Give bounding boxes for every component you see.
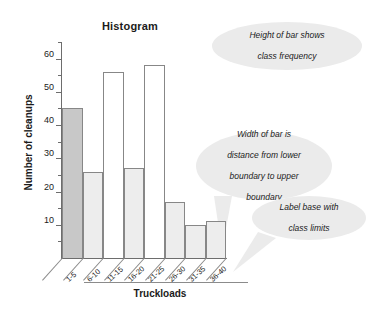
histogram-bar: [103, 72, 124, 258]
histogram-bar: [185, 225, 206, 258]
x-axis-title: Truckloads: [95, 288, 225, 299]
y-tick-label: 20: [32, 187, 54, 188]
y-tick-label: 30: [32, 153, 54, 154]
callout-label-base: Label base with class limits: [252, 196, 366, 240]
y-tick-label: 40: [32, 120, 54, 121]
y-tick-label: 50: [32, 87, 54, 88]
y-axis-title: Number of cleanups: [23, 68, 34, 218]
callout-width-of-bar: Width of bar is distance from lower boun…: [196, 132, 332, 200]
y-tick-minor: [58, 42, 62, 43]
callout-label-line2: class limits: [258, 223, 360, 234]
callout-height-line1: Height of bar shows: [218, 30, 356, 41]
callout-width-line1: Width of bar is: [202, 129, 326, 140]
y-tick-major: [56, 59, 62, 60]
histogram-bar: [144, 65, 165, 258]
histogram-bar: [206, 221, 227, 258]
callout-label-line1: Label base with: [258, 202, 360, 213]
class-limit-baseline: [84, 282, 248, 283]
histogram-bar: [83, 172, 104, 258]
callout-height-of-bar: Height of bar shows class frequency: [212, 22, 362, 70]
histogram-bar: [165, 202, 186, 258]
y-tick-label: 60: [32, 54, 54, 55]
callout-width-line2: distance from lower: [202, 150, 326, 161]
histogram-bar: [62, 108, 83, 258]
histogram-bar: [124, 168, 145, 258]
callout-width-line3: boundary to upper: [202, 171, 326, 182]
y-tick-minor: [58, 75, 62, 76]
y-tick-label: 10: [32, 220, 54, 221]
callout-height-line2: class frequency: [218, 51, 356, 62]
y-tick-major: [56, 92, 62, 93]
class-limit-divider: [42, 258, 63, 281]
histogram-figure: Histogram Number of cleanups 10203040506…: [0, 0, 370, 310]
